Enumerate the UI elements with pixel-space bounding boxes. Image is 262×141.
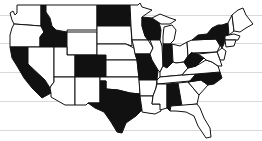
state-iowa[interactable]: [132, 40, 153, 54]
state-michigan[interactable]: [163, 25, 176, 44]
state-wyoming[interactable]: [67, 32, 97, 55]
state-north-dakota[interactable]: [97, 5, 131, 26]
state-maine[interactable]: [232, 8, 253, 32]
state-kansas[interactable]: [106, 60, 139, 77]
state-florida[interactable]: [170, 104, 211, 138]
state-south-dakota[interactable]: [97, 26, 132, 46]
state-montana[interactable]: [46, 5, 97, 32]
state-new-mexico[interactable]: [75, 77, 100, 105]
us-map: [0, 0, 262, 141]
state-colorado[interactable]: [75, 55, 106, 77]
state-connecticut-ri[interactable]: [225, 40, 236, 47]
state-washington[interactable]: [10, 5, 41, 26]
state-oregon[interactable]: [10, 24, 44, 47]
state-arizona[interactable]: [50, 77, 75, 105]
